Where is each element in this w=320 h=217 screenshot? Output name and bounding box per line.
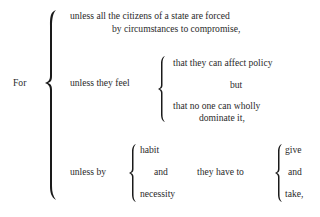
- clause3-label: unless by: [70, 167, 106, 177]
- clause1-line1: unless all the citizens of a state are f…: [70, 11, 230, 21]
- clause2-label: unless they feel: [70, 78, 130, 88]
- clause2-option2-line2: dominate it,: [199, 113, 245, 123]
- means-item-necessity: necessity: [140, 189, 175, 199]
- clause3-middle: they have to: [197, 167, 244, 177]
- actions-brace-icon: [275, 144, 283, 202]
- clause2-option2-line1: that no one can wholly: [173, 101, 260, 111]
- means-item-and: and: [154, 167, 168, 177]
- means-item-habit: habit: [140, 145, 159, 155]
- main-brace-icon: [44, 10, 58, 200]
- action-item-take: take,: [285, 189, 303, 199]
- lead-word: For: [13, 78, 26, 88]
- action-item-give: give: [285, 145, 302, 155]
- clause2-brace-icon: [158, 56, 166, 122]
- clause2-connector: but: [230, 80, 242, 90]
- means-brace-icon: [129, 144, 137, 202]
- clause2-option1: that they can affect policy: [173, 58, 272, 68]
- action-item-and: and: [288, 167, 302, 177]
- clause1-line2: by circumstances to compromise,: [112, 24, 240, 34]
